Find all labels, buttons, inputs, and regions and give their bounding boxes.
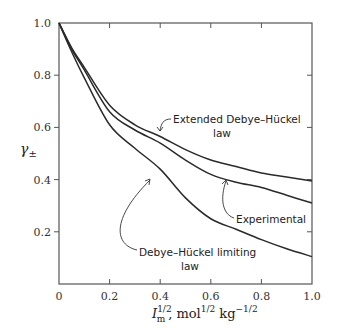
chart: 00.20.40.60.81.0 0.20.40.60.81.0 Extende… bbox=[0, 0, 337, 336]
x-tick-label: 0.4 bbox=[151, 290, 169, 303]
x-tick-labels: 00.20.40.60.81.0 bbox=[56, 290, 321, 303]
x-axis-title-unit2: kg bbox=[215, 306, 235, 321]
y-tick-label: 0.6 bbox=[34, 121, 52, 134]
x-tick-label: 0 bbox=[56, 290, 63, 303]
annotation-extended-line1: Extended Debye–Hückel bbox=[173, 113, 301, 125]
y-tick-label: 1.0 bbox=[34, 17, 52, 30]
y-tick-label: 0.2 bbox=[34, 226, 52, 239]
annotation-limiting-line1: Debye–Hückel limiting bbox=[139, 246, 256, 258]
x-tick-label: 0.8 bbox=[253, 290, 271, 303]
x-axis-title: I1/2m, mol1/2 kg−1/2 bbox=[151, 304, 258, 324]
y-tick-label: 0.8 bbox=[34, 69, 52, 82]
annotation-limiting-line2: law bbox=[181, 260, 199, 272]
y-axis-title-sub: ± bbox=[28, 148, 36, 159]
x-axis-title-unit2-sup: −1/2 bbox=[236, 304, 258, 314]
arrow-limiting bbox=[120, 180, 150, 250]
x-axis-title-unit: , mol bbox=[168, 306, 201, 321]
x-tick-label: 0.6 bbox=[202, 290, 220, 303]
x-axis-title-sub: m bbox=[157, 314, 166, 324]
x-axis-title-unit-sup: 1/2 bbox=[201, 304, 215, 314]
annotation-extended-line2: law bbox=[213, 127, 231, 139]
y-tick-label: 0.4 bbox=[34, 174, 52, 187]
annotation-experimental: Experimental bbox=[236, 213, 306, 225]
x-tick-label: 1.0 bbox=[303, 290, 321, 303]
arrow-experimental bbox=[223, 181, 234, 218]
y-axis-title: γ± bbox=[20, 141, 37, 159]
x-tick-label: 0.2 bbox=[101, 290, 119, 303]
y-tick-labels: 0.20.40.60.81.0 bbox=[34, 17, 52, 239]
